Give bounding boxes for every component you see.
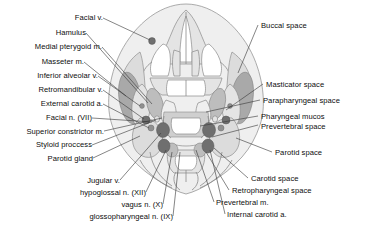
internal-jugular-vein bbox=[157, 123, 170, 138]
label-masseter-muscle: Masseter m. bbox=[0, 57, 84, 66]
label-styloid-process: Styloid proccess bbox=[0, 140, 92, 149]
label-jugular-vein: Jugular v. bbox=[20, 176, 120, 185]
label-parapharyngeal-space: Parapharyngeal space bbox=[263, 96, 340, 105]
label-parotid-gland: Parotid gland bbox=[0, 154, 93, 163]
label-hamulus: Hamulus bbox=[0, 28, 86, 37]
label-masticator-space: Masticator space bbox=[266, 80, 324, 89]
label-retromandibular-vein: Retromandibular v. bbox=[0, 85, 103, 94]
label-vagus-nerve: vagus n. (X) bbox=[20, 200, 163, 209]
label-medial-pterygoid-muscle: Medial pterygoid m. bbox=[0, 42, 102, 51]
label-glossopharyngeal-nerve: glossopharyngeal n. (IX) bbox=[20, 212, 173, 221]
label-hypoglossal-nerve: hypoglossal n. (XII) bbox=[20, 188, 146, 197]
figure-canvas: .ol{fill:none;stroke:#8a8a8a;stroke-widt… bbox=[0, 0, 372, 235]
label-internal-carotid-artery: Internal carotid a. bbox=[227, 210, 287, 219]
label-parotid-space: Parotid space bbox=[275, 148, 322, 157]
label-pharyngeal-mucosal-space: Pharyngeal mucos bbox=[261, 112, 325, 121]
inferior-alveolar-dot bbox=[140, 104, 145, 109]
label-carotid-space: Carotid space bbox=[251, 174, 299, 183]
label-superior-constrictor-muscle: Superior constrictor m. bbox=[0, 127, 104, 136]
facial-vein-dot bbox=[149, 38, 156, 45]
label-prevertebral-muscle: Prevertebral m. bbox=[216, 198, 269, 207]
label-prevertebral-space: Prevertebral space bbox=[261, 122, 326, 131]
internal-carotid-artery bbox=[158, 139, 170, 153]
label-external-carotid-artery: External carotid a. bbox=[0, 99, 103, 108]
label-facial-nerve: Facial n. (VII) bbox=[0, 113, 92, 122]
label-retropharyngeal-space: Retropharyngeal space bbox=[232, 186, 312, 195]
pharyngeal-mucosal-space bbox=[163, 112, 209, 138]
label-buccal-space: Buccal space bbox=[261, 21, 307, 30]
label-inferior-alveolar-vein: Inferior alveolar v. bbox=[0, 71, 98, 80]
label-facial-vein: Facial v. bbox=[0, 13, 103, 22]
